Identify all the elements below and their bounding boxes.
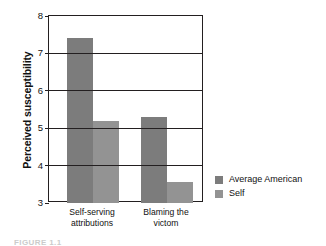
y-axis-tick-label: 7	[38, 49, 43, 59]
y-axis-tick-label: 6	[38, 86, 43, 96]
legend-swatch-icon	[215, 176, 223, 184]
plot-area: 345678	[48, 15, 203, 202]
x-axis-label-line: Self-serving	[52, 207, 132, 218]
y-axis-tick-label: 8	[38, 11, 43, 21]
legend-label: Average American	[229, 175, 302, 184]
gridline	[49, 128, 202, 129]
chart-legend: Average AmericanSelf	[215, 175, 302, 203]
bar-fill	[67, 38, 93, 203]
gridline	[49, 53, 202, 54]
legend-item: Self	[215, 189, 302, 198]
y-axis-tick-label: 4	[38, 161, 43, 171]
y-axis-tick	[45, 128, 49, 129]
bar-fill	[93, 121, 119, 203]
y-axis-tick-label: 5	[38, 123, 43, 133]
bar	[67, 38, 93, 203]
x-axis-label: Self-servingattributions	[52, 207, 132, 228]
figure-caption-partial: FIGURE 1.1	[14, 238, 62, 246]
y-axis-tick	[45, 90, 49, 91]
gridline	[49, 165, 202, 166]
y-axis-tick	[45, 16, 49, 17]
x-axis-label-line: Blaming the	[126, 207, 206, 218]
y-axis-tick	[45, 53, 49, 54]
figure-container: Perceived susceptibility 345678 Self-ser…	[0, 0, 326, 246]
bar-fill	[167, 182, 193, 203]
bar	[167, 182, 193, 203]
y-axis-title: Perceived susceptibility	[21, 15, 33, 205]
legend-item: Average American	[215, 175, 302, 184]
legend-swatch-icon	[215, 190, 223, 198]
x-axis-label-line: attributions	[52, 218, 132, 229]
x-axis-label-line: victom	[126, 218, 206, 229]
bar	[93, 121, 119, 203]
legend-label: Self	[229, 189, 245, 198]
gridline	[49, 90, 202, 91]
y-axis-tick-label: 3	[38, 198, 43, 208]
bar-fill	[141, 117, 167, 203]
x-axis-labels: Self-servingattributionsBlaming thevicto…	[48, 205, 203, 239]
bar	[141, 117, 167, 203]
bars-group	[49, 16, 202, 201]
y-axis-tick	[45, 165, 49, 166]
x-axis-label: Blaming thevictom	[126, 207, 206, 228]
y-axis-tick	[45, 203, 49, 204]
